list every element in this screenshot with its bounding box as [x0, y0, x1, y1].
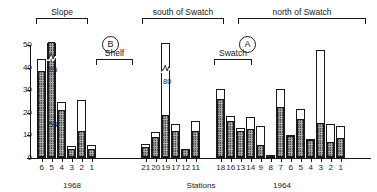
x-tick: [251, 159, 252, 162]
x-tick-label: 4: [308, 164, 312, 172]
era-label: 1964: [273, 182, 291, 190]
x-tick: [271, 159, 272, 162]
bar: [226, 116, 235, 158]
y-tick-label: 40: [0, 64, 32, 72]
x-tick: [52, 159, 53, 162]
bar: [266, 155, 275, 158]
bar: [236, 128, 245, 158]
group-bracket-label: Slope: [51, 8, 73, 17]
x-tick: [42, 159, 43, 162]
bar-hatched-segment: [142, 147, 149, 157]
x-tick: [291, 159, 292, 162]
x-tick: [241, 159, 242, 162]
x-tick: [146, 159, 147, 162]
bar: [276, 89, 285, 158]
bar-total-label: 80: [163, 78, 171, 86]
x-tick: [186, 159, 187, 162]
bar: [286, 135, 295, 158]
bar: [306, 139, 315, 158]
bar-hatched-segment: [217, 99, 224, 157]
x-tick: [341, 159, 342, 162]
x-tick: [301, 159, 302, 162]
group-bracket: [214, 59, 252, 65]
x-tick-label: 5: [298, 164, 302, 172]
x-tick: [311, 159, 312, 162]
bar-hatched-segment: [182, 149, 189, 157]
bar: 8554: [47, 43, 56, 158]
bar: [67, 146, 76, 158]
group-bracket: [142, 18, 224, 24]
bar: [181, 149, 190, 158]
bar: [151, 132, 160, 158]
bar: [87, 145, 96, 158]
x-tick-label: 11: [192, 164, 200, 172]
y-tick-label: 20: [0, 109, 32, 117]
x-tick-label: 3: [318, 164, 322, 172]
bar-hatched-segment: [38, 71, 45, 157]
group-bracket-label: south of Swatch: [153, 8, 213, 17]
bar: [316, 50, 325, 158]
bar-hatched-segment: [162, 115, 169, 157]
group-bracket: [36, 18, 88, 24]
x-tick-label: 3: [69, 164, 73, 172]
x-tick-label: 18: [216, 164, 225, 172]
x-tick: [221, 159, 222, 162]
bar-hatched-segment: [287, 136, 294, 157]
bar-hatched-segment: [267, 155, 274, 157]
bar-total-label: 85: [49, 66, 57, 74]
bar: [57, 102, 66, 158]
bar-hatched-segment: [237, 131, 244, 157]
bar: [336, 126, 345, 158]
x-tick-label: 20: [151, 164, 160, 172]
bar-hatched-segment: [192, 131, 199, 157]
bar-hatched-segment: [327, 142, 334, 157]
x-tick-label: 6: [288, 164, 292, 172]
plot-area: 01020304050 × 103 m-2 654321212019171211…: [30, 14, 371, 158]
group-bracket: [238, 18, 366, 24]
x-tick-label: 5: [49, 164, 53, 172]
bar: [171, 124, 180, 158]
bar-hatched-segment: [277, 107, 284, 157]
bar: [246, 117, 255, 158]
bar: 80: [161, 43, 170, 158]
bar-hatched-segment: [257, 145, 264, 157]
x-tick-label: 8: [268, 164, 272, 172]
panel-letter-b: B: [102, 36, 119, 53]
bar: [191, 121, 200, 158]
x-tick: [72, 159, 73, 162]
bar-hatched-segment: [68, 149, 75, 157]
x-tick-label: 9: [258, 164, 262, 172]
x-tick-label: 6: [39, 164, 43, 172]
x-tick: [331, 159, 332, 162]
bar-hatched-segment: [307, 140, 314, 157]
chart-figure: 01020304050 × 103 m-2 654321212019171211…: [0, 0, 377, 192]
bar: [326, 124, 335, 158]
bar-hatched-segment: [58, 110, 65, 157]
bar: [256, 126, 265, 158]
bar-hatched-segment: [247, 129, 254, 157]
y-tick-label: 50: [0, 41, 32, 49]
bar-hatched-segment: [78, 131, 85, 157]
x-axis-title: Stations: [187, 182, 216, 190]
x-tick-label: 19: [161, 164, 170, 172]
era-label: 1968: [63, 182, 81, 190]
x-tick: [196, 159, 197, 162]
x-tick: [281, 159, 282, 162]
y-tick-label: 0: [0, 154, 32, 162]
bar-hatched-segment: [317, 123, 324, 157]
x-tick-label: 1: [338, 164, 342, 172]
x-tick-label: 2: [328, 164, 332, 172]
x-tick: [261, 159, 262, 162]
x-tick: [82, 159, 83, 162]
x-tick-label: 12: [181, 164, 190, 172]
bar-hatched-segment: [297, 119, 304, 157]
x-tick-label: 16: [226, 164, 235, 172]
bar-hatched-segment: [227, 121, 234, 157]
bar: [77, 100, 86, 158]
x-tick-label: 13: [236, 164, 245, 172]
group-bracket-label: north of Swatch: [272, 8, 331, 17]
x-tick-label: 7: [278, 164, 282, 172]
y-tick-label: 30: [0, 86, 32, 94]
bar-hatched-segment: [337, 138, 344, 157]
bar-hatched-segment: [152, 137, 159, 157]
